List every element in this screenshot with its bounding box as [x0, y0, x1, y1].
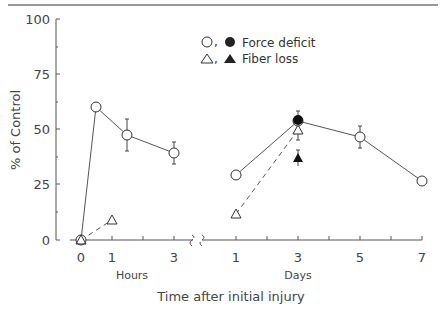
svg-text:,: , — [214, 35, 218, 49]
open-triangle-marker — [107, 215, 117, 224]
days-label: Days — [284, 269, 312, 282]
x-tick-day-3: 3 — [294, 250, 302, 265]
y-tick-50: 50 — [33, 122, 50, 137]
y-axis-title: % of Control — [8, 90, 23, 170]
legend-fiber-loss: Fiber loss — [242, 52, 298, 66]
open-circle-marker — [122, 130, 132, 140]
legend-filled-circle-icon — [225, 37, 235, 47]
y-axis: 100 75 50 25 0 % of Control — [8, 12, 60, 248]
filled-circle-marker — [293, 115, 303, 125]
error-bars — [125, 111, 362, 166]
open-circle-marker — [169, 148, 179, 158]
open-circle-marker — [91, 102, 101, 112]
series-lines — [81, 107, 422, 240]
x-tick-day-1: 1 — [232, 250, 240, 265]
y-tick-0: 0 — [42, 233, 50, 248]
y-tick-75: 75 — [33, 67, 50, 82]
force-deficit-days-line — [236, 121, 422, 181]
legend: , Force deficit , Fiber loss — [201, 35, 316, 66]
x-axis-title: Time after initial injury — [156, 289, 305, 304]
y-tick-25: 25 — [33, 177, 50, 192]
x-tick-hour-1: 1 — [108, 250, 116, 265]
chart: 100 75 50 25 0 % of Control 0 1 3 1 3 5 … — [0, 0, 444, 312]
open-circle-marker — [355, 132, 365, 142]
svg-text:,: , — [214, 52, 218, 66]
y-tick-100: 100 — [25, 12, 50, 27]
open-circle-marker — [231, 170, 241, 180]
x-tick-hour-0: 0 — [77, 250, 85, 265]
x-tick-hour-3: 3 — [170, 250, 178, 265]
legend-filled-triangle-icon — [224, 54, 236, 63]
legend-force-deficit: Force deficit — [242, 36, 316, 50]
x-tick-day-7: 7 — [418, 250, 426, 265]
x-axis: 0 1 3 1 3 5 7 Hours Days Time after init… — [70, 235, 426, 304]
x-tick-day-5: 5 — [356, 250, 364, 265]
open-triangle-marker — [231, 209, 241, 218]
filled-triangle-marker — [293, 153, 303, 162]
markers — [76, 102, 427, 245]
fiber-loss-days-line — [236, 130, 298, 214]
hours-label: Hours — [116, 269, 148, 282]
legend-open-circle-icon — [202, 37, 212, 47]
open-circle-marker — [417, 176, 427, 186]
legend-open-triangle-icon — [201, 54, 213, 63]
